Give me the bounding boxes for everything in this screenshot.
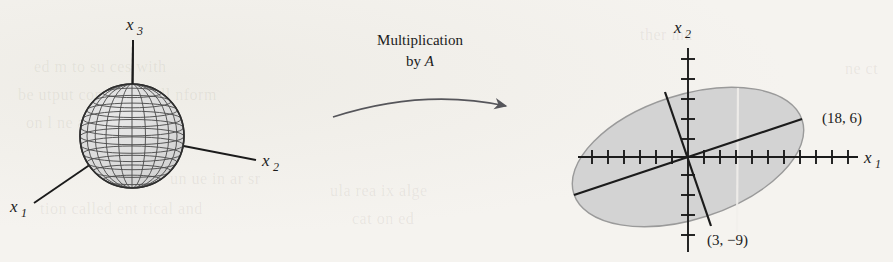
axis-label-x1-base: x <box>9 197 18 216</box>
axis-label-x2: x 2 <box>261 151 279 174</box>
axis-label-x3: x 3 <box>125 15 143 38</box>
multiplication-arrow-label-matrix: A <box>424 53 435 69</box>
scan-streak <box>737 88 738 232</box>
figure-svg: x 1 x 2 x 3 Multiplication by A <box>0 0 893 262</box>
figure-canvas: ed m to su ces withbe utput consi ered a… <box>0 0 893 262</box>
multiplication-arrow-label-by: by <box>406 53 425 69</box>
axis-label-x2-sub: 2 <box>273 160 279 174</box>
plot-axis-label-x2: x 2 <box>673 18 691 41</box>
multiplication-arrow-label-line1: Multiplication <box>377 32 463 48</box>
axis-label-x1-sub: 1 <box>21 206 27 220</box>
axis-label-x1: x 1 <box>9 197 27 220</box>
plot-axis-label-x2-sub: 2 <box>685 27 691 41</box>
ellipse-panel: x 1 x 2 (18, 6) (3, −9) <box>555 18 881 253</box>
sphere-panel: x 1 x 2 x 3 <box>9 15 279 220</box>
plot-axis-label-x1-sub: 1 <box>875 157 881 171</box>
plot-axis-label-x1: x 1 <box>863 148 881 171</box>
axis-label-x2-base: x <box>261 151 270 170</box>
axis-label-x3-sub: 3 <box>136 24 143 38</box>
plot-axis-label-x2-base: x <box>673 18 682 37</box>
multiplication-arrow-label-line2: by A <box>406 53 435 69</box>
plot-axis-label-x1-base: x <box>863 148 872 167</box>
point-label-3-neg9: (3, −9) <box>707 232 748 249</box>
multiplication-arrow-path <box>333 99 506 117</box>
transform-arrow-group: Multiplication by A <box>333 32 506 117</box>
axis-x3-stub <box>133 40 134 84</box>
point-label-18-6: (18, 6) <box>822 110 862 127</box>
axis-label-x3-base: x <box>125 15 134 34</box>
